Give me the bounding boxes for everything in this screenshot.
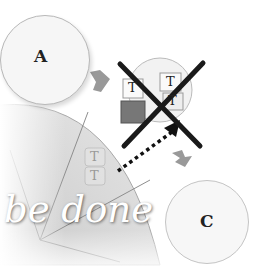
node-c: C [165,180,249,264]
node-a: A [0,15,90,105]
tile-t-1: T [128,80,137,95]
arrow-a-to-b [90,70,110,92]
sector-tile-t-1: T [90,149,99,164]
node-a-label: A [34,46,47,66]
overlay-text: be done [4,188,153,231]
tile-t-2: T [166,74,175,89]
tile-t-3: T [168,93,177,108]
sector-tile-t-2: T [90,168,99,183]
node-c-label: C [200,211,214,231]
